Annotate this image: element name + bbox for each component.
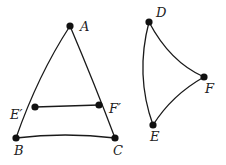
triangle-abc bbox=[16, 26, 115, 138]
label-fp: F′ bbox=[108, 101, 121, 116]
label-d: D bbox=[155, 5, 167, 20]
label-c: C bbox=[113, 143, 123, 158]
label-e: E bbox=[149, 129, 160, 144]
edge-a-b bbox=[16, 26, 70, 138]
geometry-diagram: AE′F′BCDFE bbox=[0, 0, 226, 165]
edge-d-f bbox=[149, 22, 204, 77]
point-b bbox=[12, 134, 19, 141]
label-ep: E′ bbox=[9, 107, 22, 122]
point-fp bbox=[95, 101, 102, 108]
point-ep bbox=[31, 103, 38, 110]
triangle-def bbox=[143, 22, 204, 125]
edge-e-f bbox=[153, 77, 204, 125]
edge-d-e bbox=[143, 22, 153, 125]
label-b: B bbox=[13, 143, 24, 158]
edge-b-c bbox=[16, 135, 115, 138]
point-a bbox=[66, 22, 73, 29]
label-a: A bbox=[79, 19, 89, 34]
segment-e-prime-f-prime bbox=[35, 105, 99, 107]
point-c bbox=[111, 134, 118, 141]
edge-a-c bbox=[70, 26, 115, 138]
point-e bbox=[149, 121, 156, 128]
point-f bbox=[200, 73, 207, 80]
label-f: F bbox=[204, 81, 215, 96]
point-d bbox=[145, 18, 152, 25]
